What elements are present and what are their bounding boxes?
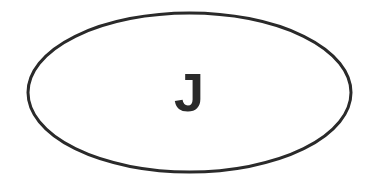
diagram-canvas [0,0,369,179]
ellipse-node [28,13,351,172]
